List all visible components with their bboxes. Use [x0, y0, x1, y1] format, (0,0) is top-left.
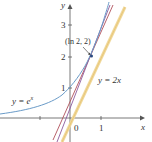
y-tick-label-1: 1: [61, 83, 66, 93]
exponential-label-main: y = e: [11, 96, 31, 106]
point-label: (ln 2, 2): [65, 37, 91, 46]
x-axis-arrow-icon: [140, 116, 145, 121]
x-axis-label: x: [140, 122, 145, 132]
exponential-label-exp: x: [30, 95, 34, 101]
line-2x-label: y = 2x: [97, 75, 121, 85]
y-tick-label-3: 3: [61, 20, 66, 30]
x-tick-label-1: 1: [99, 123, 104, 133]
exponential-label: y = ex: [11, 95, 34, 106]
y-axis-arrow-icon: [68, 4, 73, 9]
y-axis-label: y: [60, 0, 65, 10]
graph-canvas: y x 0 1 1 2 3 (ln 2, 2) y = 2x y = ex: [0, 0, 152, 142]
pointer-line: [83, 47, 90, 54]
origin-label: 0: [74, 123, 79, 133]
y-tick-label-2: 2: [61, 52, 66, 62]
